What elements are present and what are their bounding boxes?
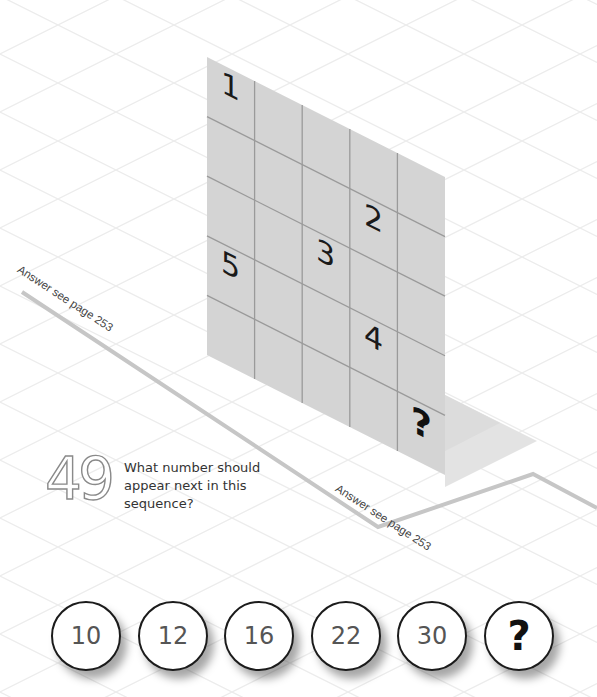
number-grid-panel <box>0 0 597 697</box>
grid-cell-number: 4 <box>364 318 383 358</box>
grid-cell-number: 2 <box>364 199 383 239</box>
grid-cell-question-mark: ? <box>411 401 432 447</box>
sequence-item: 10 <box>51 601 121 671</box>
sequence-item: 22 <box>311 601 381 671</box>
sequence-item: 30 <box>397 601 467 671</box>
grid-cell-number: 5 <box>221 246 240 286</box>
sequence-value: 10 <box>71 622 102 650</box>
sequence-item-unknown: ? <box>484 601 554 671</box>
sequence-value: 16 <box>244 622 275 650</box>
puzzle-page: 12345? Answer see page 253 Answer see pa… <box>0 0 597 697</box>
sequence-value: 22 <box>331 622 362 650</box>
sequence-value: 12 <box>158 622 189 650</box>
grid-cell-number: 3 <box>316 234 335 274</box>
question-text: What number should appear next in this s… <box>124 459 274 513</box>
grid-cell-number: 1 <box>221 67 240 107</box>
sequence-item: 12 <box>138 601 208 671</box>
sequence-item: 16 <box>224 601 294 671</box>
question-mark: ? <box>507 613 530 659</box>
puzzle-number: 49 <box>45 450 111 508</box>
sequence-value: 30 <box>417 622 448 650</box>
